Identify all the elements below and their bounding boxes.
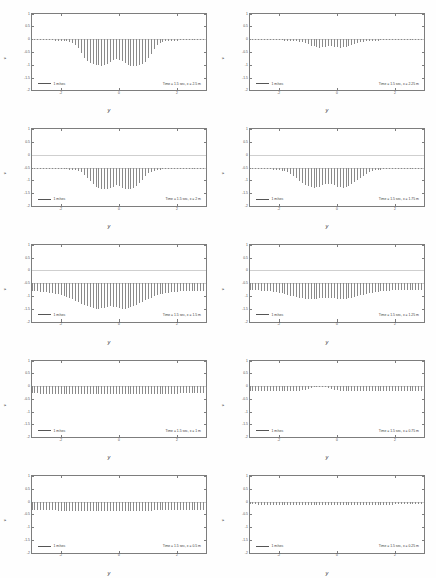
vector-arrow <box>46 502 47 511</box>
plot-frame: 10.50-0.5-1-1.5-2-2021 m/secTime = 1.5 s… <box>249 13 426 92</box>
vector-arrow <box>360 168 361 178</box>
vector-arrow <box>311 386 312 388</box>
vector-arrow <box>319 283 320 298</box>
x-tick-label: 2 <box>176 207 178 211</box>
panel-annotation: Time = 1.5 sec, x = 1.5 m <box>163 313 201 317</box>
vector-arrow <box>197 39 198 40</box>
vector-arrow <box>139 502 140 511</box>
vector-arrow <box>46 39 47 40</box>
y-tick-label: -0.5 <box>24 281 30 285</box>
vector-arrow <box>389 283 390 290</box>
vector-arrow <box>157 168 158 170</box>
legend-label: 1 m/sec <box>271 313 283 317</box>
vector-arrow <box>107 283 108 307</box>
vector-arrow <box>61 502 62 511</box>
legend-label: 1 m/sec <box>53 544 65 548</box>
vector-arrow <box>133 39 134 66</box>
plot-frame: 10.50-0.5-1-1.5-2-2021 m/secTime = 1.5 s… <box>249 244 426 323</box>
vector-arrow <box>293 39 294 41</box>
vector-arrow <box>322 168 323 186</box>
vector-arrow <box>154 502 155 511</box>
x-tick-label: 2 <box>176 553 178 557</box>
legend-scale-bar <box>256 83 269 84</box>
y-tick-mark <box>250 206 252 207</box>
legend-scale-bar <box>38 199 51 200</box>
vector-arrow <box>101 386 102 394</box>
x-tick-label: 0 <box>118 438 120 442</box>
vector-arrow <box>133 502 134 511</box>
vector-arrow <box>145 168 146 177</box>
vector-arrow <box>404 39 405 40</box>
vector-arrow <box>378 283 379 291</box>
vector-arrow <box>151 168 152 172</box>
vector-field <box>250 245 425 322</box>
vector-arrow <box>250 386 251 391</box>
vector-arrow <box>165 283 166 293</box>
panel-annotation: Time = 1.5 sec, x = 1.75 m <box>379 197 419 201</box>
vector-arrow <box>351 283 352 298</box>
vector-arrow <box>366 283 367 294</box>
vector-arrow <box>119 386 120 394</box>
vector-arrow <box>43 283 44 292</box>
vector-arrow <box>392 283 393 290</box>
vector-arrow <box>96 502 97 511</box>
x-tick-label: -2 <box>59 91 62 95</box>
vector-arrow <box>290 502 291 505</box>
scale-legend: 1 m/sec <box>38 429 65 433</box>
vector-field <box>250 476 425 553</box>
vector-arrow <box>334 386 335 390</box>
plot-frame: 10.50-0.5-1-1.5-2-2021 m/secTime = 1.5 s… <box>31 128 208 207</box>
vector-arrow <box>372 39 373 41</box>
vector-arrow <box>410 283 411 290</box>
vector-arrow <box>168 283 169 292</box>
vector-arrow <box>162 386 163 394</box>
vector-arrow <box>389 502 390 505</box>
legend-scale-bar <box>38 546 51 547</box>
vector-arrow <box>255 386 256 391</box>
vector-arrow <box>34 386 35 393</box>
vector-arrow <box>142 502 143 511</box>
vector-arrow <box>110 502 111 511</box>
vector-arrow <box>348 168 349 186</box>
vector-arrow <box>171 168 172 169</box>
vector-arrow <box>325 502 326 505</box>
y-tick-label: 0 <box>246 37 248 41</box>
vector-arrow <box>72 168 73 170</box>
vector-arrow <box>340 168 341 188</box>
x-tick-label: 0 <box>336 207 338 211</box>
vector-arrow <box>183 386 184 393</box>
y-tick-label: -0.5 <box>242 512 248 516</box>
vector-arrow <box>348 386 349 391</box>
vector-arrow <box>273 39 274 40</box>
vector-arrow <box>296 283 297 297</box>
y-tick-label: -1 <box>27 525 30 529</box>
vector-arrow <box>122 386 123 394</box>
vector-arrow <box>299 386 300 391</box>
vector-arrow <box>93 502 94 511</box>
vector-arrow <box>162 39 163 42</box>
y-tick-label: -0.5 <box>242 397 248 401</box>
vector-arrow <box>96 39 97 65</box>
vector-arrow <box>322 39 323 47</box>
vector-arrow <box>64 502 65 511</box>
vector-arrow <box>328 386 329 388</box>
vector-arrow <box>282 283 283 293</box>
y-tick-label: 0.5 <box>25 371 30 375</box>
y-tick-label: 0.5 <box>243 256 248 260</box>
vector-arrow <box>287 168 288 173</box>
y-tick-mark <box>250 322 252 323</box>
vector-arrow <box>325 39 326 47</box>
vector-arrow <box>136 39 137 66</box>
vector-arrow <box>192 283 193 291</box>
vector-arrow <box>125 502 126 511</box>
y-tick-label: -1.5 <box>24 76 30 80</box>
vector-arrow <box>287 386 288 391</box>
vector-arrow <box>69 502 70 511</box>
y-tick-label: -1 <box>27 178 30 182</box>
vector-arrow <box>343 283 344 299</box>
scale-legend: 1 m/sec <box>256 544 283 548</box>
vector-arrow <box>264 386 265 391</box>
vector-arrow <box>136 283 137 305</box>
plot-panel: v10.50-0.5-1-1.5-2-2021 m/secTime = 1.5 … <box>0 347 218 463</box>
plot-frame: 10.50-0.5-1-1.5-2-2021 m/secTime = 1.5 s… <box>249 128 426 207</box>
